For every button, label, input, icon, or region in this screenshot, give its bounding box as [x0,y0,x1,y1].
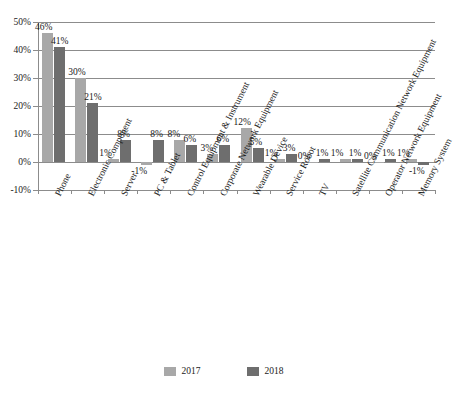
y-axis-tick-mark [33,162,38,163]
y-axis-tick-mark [33,106,38,107]
bar-2017-3 [141,162,152,165]
x-axis-tick-mark [137,190,138,194]
bar-2018-9 [352,159,363,162]
bar-value-label: 1% [382,148,395,158]
x-axis-tick-mark [38,190,39,194]
bar-value-label: 8% [150,129,163,139]
bar-2018-6 [253,148,264,162]
x-axis-tick-mark [71,190,72,194]
x-axis-tick-mark [369,190,370,194]
y-axis-tick-mark [33,78,38,79]
x-axis-tick-mark [237,190,238,194]
x-axis-tick-mark [402,190,403,194]
bar-value-label: 6% [183,134,196,144]
bar-value-label: 46% [35,22,52,32]
x-axis-tick-mark [203,190,204,194]
legend-item-2018[interactable]: 2018 [247,366,284,376]
bar-2018-5 [219,145,230,162]
bar-2018-11 [418,162,429,165]
x-axis-tick-mark [270,190,271,194]
y-axis-tick-label: -10% [0,185,31,195]
bar-value-label: 21% [84,92,101,102]
y-axis-tick-label: 20% [0,101,31,111]
y-axis-tick-label: 40% [0,45,31,55]
y-axis-tick-label: 10% [0,129,31,139]
y-axis-tick-mark [33,50,38,51]
bar-value-label: 30% [68,67,85,77]
chart-legend: 20172018 [0,366,447,376]
bar-2018-3 [153,140,164,162]
y-axis-line [38,22,39,190]
y-axis-tick-label: 0% [0,157,31,167]
bar-2018-1 [87,103,98,162]
x-axis-tick-mark [336,190,337,194]
gridline [38,22,435,23]
legend-item-2017[interactable]: 2017 [164,366,201,376]
gridline [38,50,435,51]
bar-2018-4 [186,145,197,162]
bar-2018-8 [319,159,330,162]
x-axis-tick-mark [104,190,105,194]
bar-2018-7 [286,154,297,162]
bar-value-label: 1% [316,148,329,158]
legend-label: 2017 [182,366,201,376]
bar-2018-0 [54,47,65,162]
y-axis-tick-label: 50% [0,17,31,27]
bar-value-label: 1% [331,148,344,158]
bar-2017-1 [75,78,86,162]
bar-value-label: -1% [409,166,425,176]
gridline [38,78,435,79]
legend-swatch-icon [164,367,176,376]
x-axis-tick-mark [303,190,304,194]
bar-2018-10 [385,159,396,162]
x-axis-tick-mark [170,190,171,194]
bar-2017-9 [340,159,351,162]
legend-label: 2018 [265,366,284,376]
bar-value-label: 1% [349,148,362,158]
bar-value-label: 12% [234,117,251,127]
y-axis-tick-label: 30% [0,73,31,83]
bar-2017-0 [42,33,53,162]
x-axis-tick-mark [435,190,436,194]
legend-swatch-icon [247,367,259,376]
y-axis-tick-mark [33,134,38,135]
bar-value-label: 8% [167,129,180,139]
bar-value-label: 41% [51,36,68,46]
